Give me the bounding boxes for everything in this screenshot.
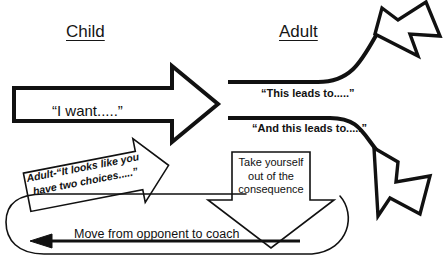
child-demand-label: “I want.....” bbox=[52, 102, 123, 119]
feedback-arrowhead bbox=[30, 234, 52, 248]
adult-response-1-label: “This leads to.....” bbox=[261, 87, 355, 99]
feedback-loop-label: Move from opponent to coach bbox=[74, 227, 239, 241]
diagram-canvas: Child Adult “I want.....” “This leads to… bbox=[0, 0, 443, 271]
adult-response-2-label: “And this leads to.....” bbox=[252, 122, 367, 134]
column-header-child: Child bbox=[66, 22, 105, 42]
consequence-label-line-1: Take yourself bbox=[233, 156, 309, 170]
adult-response-1-arrowhead bbox=[375, 2, 440, 56]
consequence-label-line-2: out of the bbox=[233, 170, 309, 184]
consequence-label-line-3: consequence bbox=[233, 183, 309, 197]
adult-response-2-arrowhead bbox=[374, 148, 430, 216]
column-header-adult: Adult bbox=[279, 22, 318, 42]
consequence-label-group: Take yourself out of the consequence bbox=[233, 156, 309, 197]
